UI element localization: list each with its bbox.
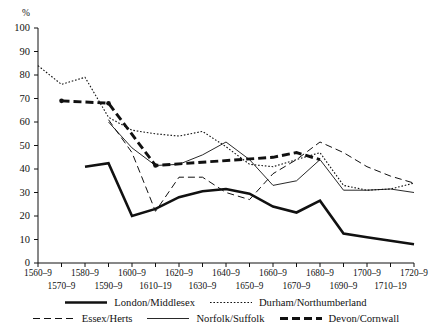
- legend-swatch-dashed-thick: [279, 314, 323, 323]
- legend-label: Norfolk/Suffolk: [196, 313, 264, 324]
- chart-legend: London/MiddlesexDurham/Northumberland Es…: [0, 294, 431, 326]
- legend-label: Durham/Northumberland: [259, 297, 367, 308]
- legend-row-2: Essex/HertsNorfolk/SuffolkDevon/Cornwall: [0, 310, 431, 326]
- legend-swatch-dotted: [209, 298, 253, 307]
- legend-item: Durham/Northumberland: [209, 297, 367, 308]
- legend-label: Essex/Herts: [82, 313, 133, 324]
- series-marker: [153, 163, 158, 168]
- legend-label: London/Middlesex: [114, 297, 195, 308]
- legend-swatch-solid-thin: [146, 314, 190, 323]
- axis-lines: [38, 28, 414, 263]
- legend-item: Norfolk/Suffolk: [146, 313, 264, 324]
- series-line-london-middlesex: [85, 163, 414, 244]
- legend-item: Essex/Herts: [32, 313, 133, 324]
- series-line-durham-northumberland: [38, 66, 414, 191]
- line-chart-plot: [0, 0, 431, 329]
- legend-swatch-solid-thick: [64, 298, 108, 307]
- legend-item: Devon/Cornwall: [279, 313, 400, 324]
- legend-swatch-dashed-long: [32, 314, 76, 323]
- legend-item: London/Middlesex: [64, 297, 195, 308]
- chart-figure: % 1009080706050403020100 1560–91580–9160…: [0, 0, 431, 329]
- legend-row-1: London/MiddlesexDurham/Northumberland: [0, 294, 431, 310]
- legend-label: Devon/Cornwall: [329, 313, 400, 324]
- series-marker: [59, 99, 64, 104]
- series-marker: [106, 101, 111, 106]
